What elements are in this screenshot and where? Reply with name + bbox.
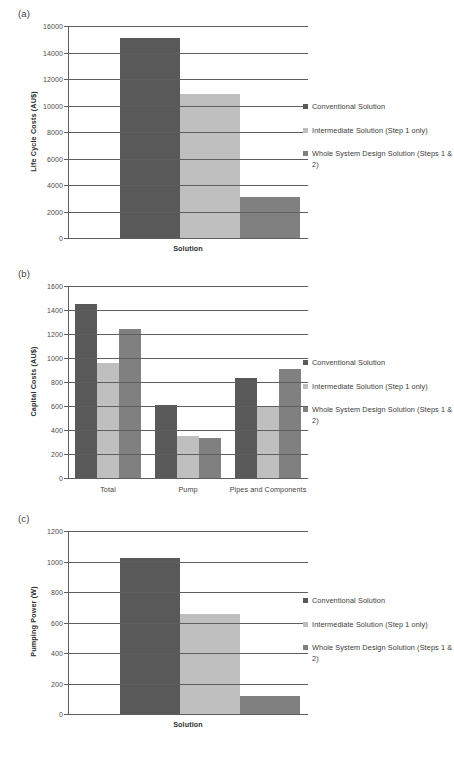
gridline (68, 106, 308, 107)
legend-item: Whole System Design Solution (Steps 1 & … (303, 149, 453, 170)
gridline (68, 358, 308, 359)
y-axis-tick-label: 6000 (47, 155, 63, 162)
bar (155, 405, 177, 478)
y-axis-tick-label: 600 (51, 619, 63, 626)
gridline (68, 623, 308, 624)
y-axis-tick (64, 334, 69, 335)
gridline (68, 286, 308, 287)
legend-swatch-icon (303, 384, 308, 389)
y-axis-tick-label: 16000 (43, 23, 63, 30)
legend-label: Conventional Solution (312, 358, 385, 369)
y-axis-tick (64, 714, 69, 715)
bar (240, 696, 300, 714)
legend-swatch-icon (303, 407, 308, 412)
y-axis-tick (64, 653, 69, 654)
legend-item: Intermediate Solution (Step 1 only) (303, 620, 453, 631)
y-axis-tick (64, 430, 69, 431)
gridline (68, 79, 308, 80)
bar (235, 378, 257, 478)
gridline (68, 454, 308, 455)
bar (177, 436, 199, 478)
legend-label: Intermediate Solution (Step 1 only) (312, 620, 428, 631)
legend-swatch-icon (303, 360, 308, 365)
gridline (68, 212, 308, 213)
legend-label: Conventional Solution (312, 102, 385, 113)
legend-swatch-icon (303, 151, 308, 156)
bar (75, 304, 97, 478)
y-axis-tick (64, 406, 69, 407)
gridline (68, 238, 308, 239)
y-axis-tick (64, 286, 69, 287)
y-axis-tick-label: 14000 (43, 49, 63, 56)
gridline (68, 159, 308, 160)
legend-swatch-icon (303, 598, 308, 603)
y-axis-tick-label: 400 (51, 427, 63, 434)
legend-item: Whole System Design Solution (Steps 1 & … (303, 643, 453, 664)
gridline (68, 53, 308, 54)
panel-c-tag: (c) (18, 513, 30, 524)
y-axis-tick-label: 200 (51, 451, 63, 458)
legend-swatch-icon (303, 128, 308, 133)
gridline (68, 562, 308, 563)
gridline (68, 132, 308, 133)
y-axis-tick-label: 600 (51, 403, 63, 410)
y-axis-tick (64, 159, 69, 160)
y-axis-tick-label: 1200 (47, 528, 63, 535)
y-axis-tick (64, 478, 69, 479)
panel-b-tag: (b) (18, 268, 30, 279)
legend-swatch-icon (303, 622, 308, 627)
gridline (68, 185, 308, 186)
panel-c-x-axis-label: Solution (68, 720, 308, 729)
legend-label: Whole System Design Solution (Steps 1 & … (312, 643, 453, 664)
gridline (68, 334, 308, 335)
x-axis-category-label: Pipes and Components (228, 485, 308, 495)
y-axis-tick-label: 0 (59, 711, 63, 718)
gridline (68, 430, 308, 431)
gridline (68, 531, 308, 532)
bar (97, 363, 119, 478)
bar (180, 614, 240, 714)
y-axis-tick-label: 12000 (43, 76, 63, 83)
panel-a-x-axis-label: Solution (68, 244, 308, 253)
gridline (68, 26, 308, 27)
legend-item: Intermediate Solution (Step 1 only) (303, 126, 453, 137)
y-axis-tick-label: 400 (51, 650, 63, 657)
panel-b-legend: Conventional SolutionIntermediate Soluti… (303, 358, 453, 439)
y-axis-tick (64, 623, 69, 624)
y-axis-tick (64, 382, 69, 383)
gridline (68, 653, 308, 654)
panel-a-legend: Conventional SolutionIntermediate Soluti… (303, 102, 453, 183)
figure-root: (a) Life Cycle Costs (AU$) 0200040006000… (0, 0, 454, 758)
legend-label: Intermediate Solution (Step 1 only) (312, 382, 428, 393)
legend-item: Conventional Solution (303, 358, 453, 369)
legend-item: Whole System Design Solution (Steps 1 & … (303, 405, 453, 426)
y-axis-tick (64, 53, 69, 54)
panel-b-plot-area: 02004006008001000120014001600 (68, 286, 308, 478)
y-axis-tick-label: 1000 (47, 355, 63, 362)
x-axis-category-label: Total (68, 485, 148, 495)
gridline (68, 592, 308, 593)
y-axis-tick-label: 1000 (47, 558, 63, 565)
y-axis-tick (64, 454, 69, 455)
gridline (68, 382, 308, 383)
panel-c-y-axis-label: Pumping Power (W) (29, 562, 38, 682)
legend-label: Intermediate Solution (Step 1 only) (312, 126, 428, 137)
y-axis-tick-label: 1400 (47, 307, 63, 314)
bar (120, 38, 180, 238)
y-axis-tick-label: 10000 (43, 102, 63, 109)
gridline (68, 684, 308, 685)
legend-item: Intermediate Solution (Step 1 only) (303, 382, 453, 393)
bar (120, 558, 180, 714)
bar (257, 407, 279, 478)
y-axis-tick (64, 212, 69, 213)
legend-label: Whole System Design Solution (Steps 1 & … (312, 405, 453, 426)
y-axis-tick-label: 800 (51, 589, 63, 596)
panel-b-y-axis-label: Capital Costs (AU$) (29, 322, 38, 442)
x-axis-category-label: Pump (148, 485, 228, 495)
y-axis-tick (64, 310, 69, 311)
y-axis-tick (64, 79, 69, 80)
panel-a-tag: (a) (18, 8, 30, 19)
legend-item: Conventional Solution (303, 102, 453, 113)
y-axis-tick-label: 800 (51, 379, 63, 386)
legend-label: Conventional Solution (312, 596, 385, 607)
